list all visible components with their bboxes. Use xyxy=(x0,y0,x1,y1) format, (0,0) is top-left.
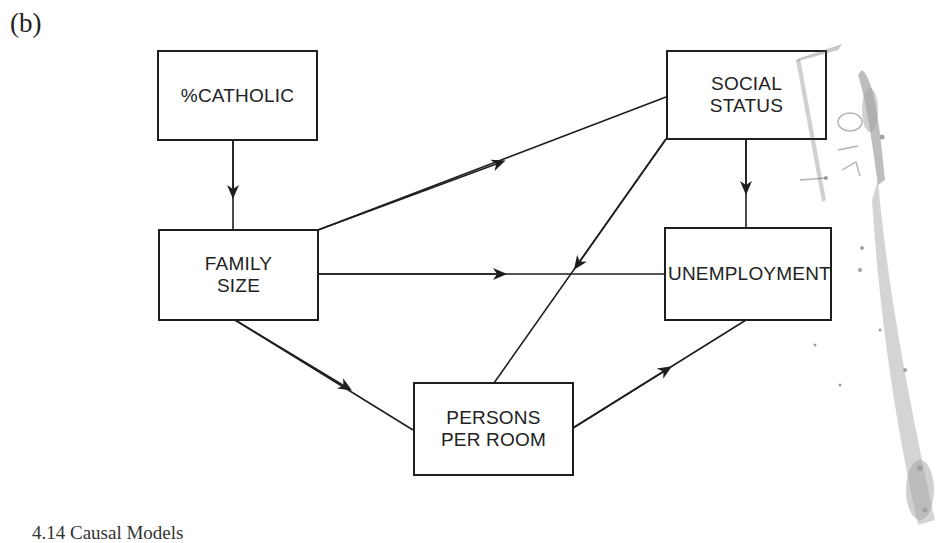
node-unemployment-label: UNEMPLOYMENT xyxy=(668,263,831,285)
node-social-status-label: SOCIAL STATUS xyxy=(710,73,783,117)
node-persons-per-room: PERSONS PER ROOM xyxy=(413,382,574,476)
node-unemployment: UNEMPLOYMENT xyxy=(664,227,832,321)
edge-social-status-to-persons-per-room xyxy=(494,139,666,383)
node-catholic-label: %CATHOLIC xyxy=(181,85,294,107)
edge-family-size-to-persons-per-room xyxy=(235,320,413,430)
edge-family-size-to-social-status xyxy=(318,97,666,230)
node-catholic: %CATHOLIC xyxy=(157,50,318,141)
node-family-size-label: FAMILY SIZE xyxy=(205,253,272,297)
figure-caption: 4.14 Causal Models xyxy=(32,522,183,543)
node-persons-per-room-label: PERSONS PER ROOM xyxy=(441,407,546,451)
node-social-status: SOCIAL STATUS xyxy=(666,50,827,140)
node-family-size: FAMILY SIZE xyxy=(158,229,319,321)
edge-persons-per-room-to-unemployment xyxy=(573,320,746,428)
